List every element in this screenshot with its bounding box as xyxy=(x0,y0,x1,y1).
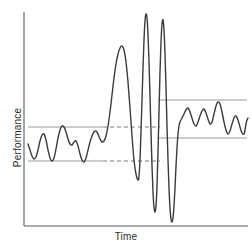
chart-axes xyxy=(24,12,248,226)
x-axis-label: Time xyxy=(0,231,252,242)
performance-trace xyxy=(28,14,248,222)
performance-trace-line xyxy=(28,14,248,222)
performance-over-time-chart: Performance Time xyxy=(0,0,252,249)
y-axis-label: Performance xyxy=(12,83,23,193)
reference-lines xyxy=(28,100,247,161)
chart-canvas xyxy=(0,0,252,249)
